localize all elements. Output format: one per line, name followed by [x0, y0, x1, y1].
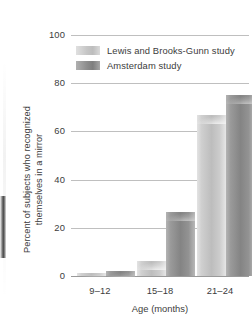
bar-cap [226, 95, 252, 104]
y-tick-label-0: 0 [31, 270, 65, 281]
legend-item-lewis[interactable]: Lewis and Brooks-Gunn study [76, 43, 235, 58]
x-tick-label-21-24: 21–24 [191, 285, 249, 296]
y-tick-label-60: 60 [31, 125, 65, 136]
bar-chart-figure: Percent of subjects who recognized thems… [0, 0, 252, 327]
gridline-80 [71, 83, 249, 84]
x-axis-title: Age (months) [71, 303, 249, 314]
x-tick-label-15-18: 15–18 [131, 285, 189, 296]
bar-21-24-lewis[interactable] [197, 115, 226, 276]
legend-label-amsterdam: Amsterdam study [107, 60, 181, 71]
legend-swatch-lewis-icon [76, 46, 100, 55]
y-tick-label-80: 80 [31, 77, 65, 88]
bar-15-18-lewis[interactable] [137, 261, 166, 276]
y-tick-label-20: 20 [31, 222, 65, 233]
legend-swatch-amsterdam-icon [76, 61, 100, 70]
y-tick-label-40: 40 [31, 174, 65, 185]
bar-cap [137, 261, 166, 270]
gridline-100 [71, 35, 249, 36]
legend-item-amsterdam[interactable]: Amsterdam study [76, 58, 235, 73]
x-tick-label-9-12: 9–12 [71, 285, 129, 296]
bar-cap [106, 271, 135, 280]
bar-cap [77, 273, 106, 282]
bar-9-12-lewis[interactable] [77, 273, 106, 276]
bar-9-12-amsterdam[interactable] [106, 271, 135, 276]
bar-cap [166, 212, 195, 221]
bar-15-18-amsterdam[interactable] [166, 212, 195, 276]
bar-cap [197, 115, 226, 124]
y-tick-label-100: 100 [31, 29, 65, 40]
bar-21-24-amsterdam[interactable] [226, 95, 252, 276]
legend-label-lewis: Lewis and Brooks-Gunn study [107, 45, 235, 56]
chart-legend: Lewis and Brooks-Gunn study Amsterdam st… [76, 43, 235, 73]
